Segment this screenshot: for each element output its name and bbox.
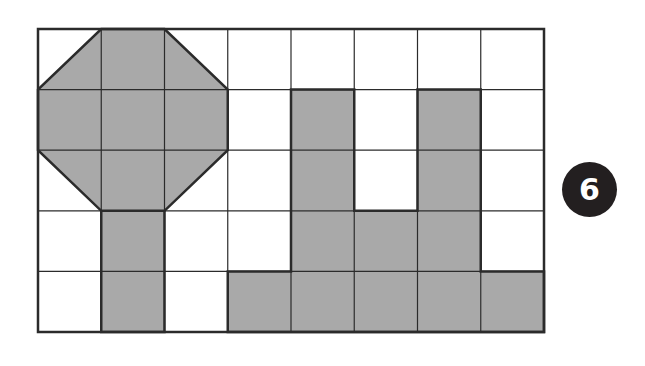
figure-number-badge: 6 [562, 162, 617, 217]
shaded-cell [228, 271, 291, 332]
shaded-cell [291, 271, 354, 332]
shaded-cell [354, 271, 417, 332]
shaded-cell [418, 90, 481, 151]
shaded-cell [418, 271, 481, 332]
shaded-cell [101, 271, 164, 332]
shaded-cell [291, 90, 354, 151]
shaded-cell [481, 271, 544, 332]
shaded-cell [101, 211, 164, 272]
shaded-cell [291, 150, 354, 211]
shaded-cell [291, 211, 354, 272]
shaded-cell [354, 211, 417, 272]
figure-number: 6 [579, 172, 600, 207]
grid-figure [0, 0, 645, 366]
shaded-cell [418, 211, 481, 272]
shaded-cell [418, 150, 481, 211]
octagon-shape [38, 29, 228, 211]
